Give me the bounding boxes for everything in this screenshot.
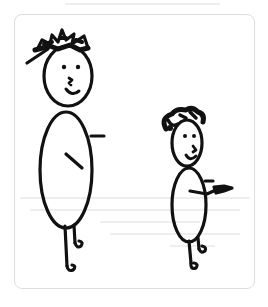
short-figure-right-leg — [198, 238, 199, 249]
tall-figure-nose — [69, 78, 72, 85]
short-figure-right-eye — [192, 134, 196, 138]
tall-figure-right-eye — [76, 65, 80, 69]
short-figure-left-foot — [191, 263, 197, 268]
short-figure-nose — [193, 146, 196, 152]
tall-figure-hair — [27, 30, 88, 63]
tall-figure-right-leg — [74, 225, 75, 243]
tall-figure-left-foot — [67, 265, 75, 271]
short-figure-left-eye — [183, 134, 187, 138]
short-figure-head — [172, 120, 202, 166]
short-figure — [164, 108, 232, 268]
tall-figure-mouth — [66, 89, 79, 94]
tall-figure-head — [44, 46, 92, 106]
short-figure-left-leg — [189, 241, 191, 263]
tall-figure-inner-arm — [66, 154, 82, 168]
tall-figure-right-foot — [75, 241, 82, 247]
tall-figure-left-eye — [62, 65, 66, 69]
tall-figure — [27, 30, 104, 271]
short-figure-body — [172, 168, 206, 242]
short-figure-hand — [214, 186, 232, 193]
tall-figure-left-leg — [65, 226, 67, 266]
short-figure-mouth — [186, 155, 196, 159]
stick-figures-drawing — [0, 0, 268, 307]
